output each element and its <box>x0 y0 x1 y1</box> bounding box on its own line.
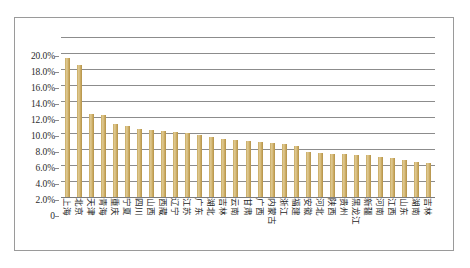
y-axis-tick-mark <box>55 184 59 185</box>
bar <box>65 58 70 197</box>
bar <box>390 158 395 197</box>
x-axis-tick-label: 天津 <box>86 198 95 216</box>
bar <box>258 142 263 197</box>
y-axis-tick-mark <box>55 168 59 169</box>
x-axis-tick-label: 宁夏 <box>122 198 131 216</box>
bar <box>197 135 202 197</box>
y-axis-tick-label: 14.0% <box>31 99 55 109</box>
bar <box>378 157 383 197</box>
x-axis-tick-label: 上海 <box>62 198 71 216</box>
y-axis-tick-mark <box>55 216 59 217</box>
y-axis-tick-label: 10.0% <box>31 131 55 141</box>
x-axis: 上海北京天津青海重庆宁夏四川山西西藏辽宁江苏广东湖北吉林云南甘肃广西内蒙古浙江福… <box>61 198 435 248</box>
y-axis-tick-mark <box>55 136 59 137</box>
x-axis-tick-label: 四川 <box>134 198 143 216</box>
y-axis-tick-label: 18.0% <box>31 67 55 77</box>
chart-frame: 20.0%18.0%16.0%14.0%12.0%10.0%8.0%6.0%4.… <box>14 17 454 251</box>
y-axis-tick-label: 4.0% <box>36 179 55 189</box>
bar <box>414 162 419 197</box>
y-axis-tick-mark <box>55 152 59 153</box>
bar-series <box>61 37 435 197</box>
x-axis-tick-label: 安徽 <box>303 198 312 216</box>
y-axis-tick-mark <box>55 72 59 73</box>
bar <box>185 133 190 197</box>
x-axis-tick-label: 江苏 <box>183 198 192 216</box>
y-axis-tick-label: 8.0% <box>36 147 55 157</box>
bar <box>426 163 431 197</box>
y-axis-tick-label: 20.0% <box>31 51 55 61</box>
y-axis-tick-label: 2.0% <box>36 195 55 205</box>
bar <box>282 144 287 197</box>
x-axis-tick-label: 黑龙江 <box>352 198 361 225</box>
x-axis-tick-label: 湖北 <box>207 198 216 216</box>
x-axis-tick-label: 贵州 <box>340 198 349 216</box>
x-axis-tick-label: 北京 <box>74 198 83 216</box>
bar <box>306 152 311 197</box>
bar <box>318 153 323 197</box>
y-axis-tick-mark <box>55 200 59 201</box>
y-axis-tick-mark <box>55 56 59 57</box>
x-axis-tick-label: 福建 <box>291 198 300 216</box>
y-axis-tick-mark <box>55 104 59 105</box>
x-axis-tick-label: 西藏 <box>159 198 168 216</box>
x-axis-tick-label: 广东 <box>195 198 204 216</box>
x-axis-tick-label: 河南 <box>376 198 385 216</box>
bar <box>246 141 251 197</box>
bar <box>233 140 238 197</box>
bar <box>294 146 299 197</box>
x-axis-tick-label: 甘肃 <box>243 198 252 216</box>
bar <box>366 155 371 197</box>
x-axis-tick-label: 内蒙古 <box>267 198 276 225</box>
y-axis: 20.0%18.0%16.0%14.0%12.0%10.0%8.0%6.0%4.… <box>15 37 59 197</box>
x-axis-tick-label: 陕西 <box>327 198 336 216</box>
x-axis-tick-label: 重庆 <box>110 198 119 216</box>
y-axis-tick-mark <box>55 88 59 89</box>
x-axis-tick-label: 山东 <box>400 198 409 216</box>
bar <box>89 114 94 197</box>
plot-area <box>61 37 435 197</box>
x-axis-tick-label: 辽宁 <box>171 198 180 216</box>
x-axis-tick-label: 云南 <box>231 198 240 216</box>
x-axis-tick-label: 湖南 <box>412 198 421 216</box>
bar <box>221 139 226 197</box>
x-axis-tick-label: 广西 <box>255 198 264 216</box>
bar <box>113 124 118 197</box>
bar <box>77 65 82 197</box>
bar <box>402 160 407 197</box>
x-axis-tick-label: 浙江 <box>279 198 288 216</box>
x-axis-tick-label: 河北 <box>315 198 324 216</box>
y-axis-tick-mark <box>55 120 59 121</box>
x-axis-tick-label: 新疆 <box>364 198 373 216</box>
bar <box>101 115 106 197</box>
bar <box>173 132 178 197</box>
bar <box>149 130 154 197</box>
bar <box>209 137 214 197</box>
x-axis-tick-label: 江西 <box>388 198 397 216</box>
bar <box>137 129 142 197</box>
bar <box>342 154 347 197</box>
bar <box>330 154 335 197</box>
x-axis-tick-label: 吉林 <box>219 198 228 216</box>
x-axis-tick-label: 吉林 <box>424 198 433 216</box>
y-axis-tick-label: 6.0% <box>36 163 55 173</box>
bar <box>270 143 275 197</box>
bar <box>354 155 359 197</box>
y-axis-tick-label: 12.0% <box>31 115 55 125</box>
y-axis-tick-label: 16.0% <box>31 83 55 93</box>
x-axis-tick-label: 山西 <box>146 198 155 216</box>
bar <box>161 131 166 197</box>
x-axis-tick-label: 青海 <box>98 198 107 216</box>
bar <box>125 126 130 197</box>
